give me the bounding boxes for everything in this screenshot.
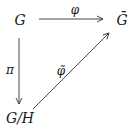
label-phi: φ [71, 4, 79, 16]
arrow-phi-tilde [33, 33, 109, 109]
node-g-bar: Ḡ [116, 13, 127, 27]
label-phi-tilde: φ̃ [57, 65, 65, 77]
commutative-diagram: G Ḡ G/H φ π φ̃ [0, 0, 135, 136]
node-g: G [14, 13, 25, 27]
label-pi: π [6, 64, 14, 76]
node-g-over-h: G/H [6, 111, 34, 125]
